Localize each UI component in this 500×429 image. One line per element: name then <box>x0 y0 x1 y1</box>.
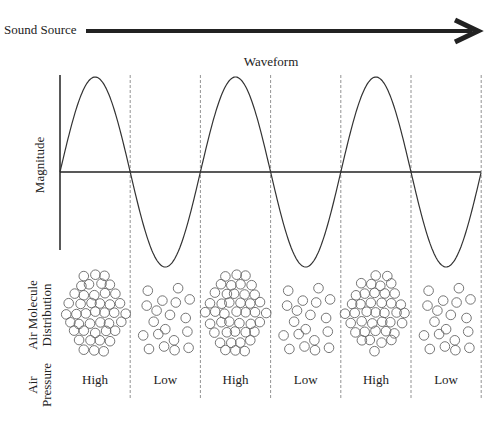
molecule-icon <box>310 345 320 355</box>
molecule-icon <box>462 313 472 323</box>
molecule-icon <box>158 296 168 306</box>
molecule-icon <box>64 298 74 308</box>
distribution-label-line1: Air Molecule <box>25 280 40 350</box>
molecule-icon <box>351 291 361 301</box>
molecule-icon <box>246 336 256 346</box>
molecule-icon <box>434 329 444 339</box>
molecule-icon <box>419 331 429 341</box>
molecule-icon <box>231 346 241 356</box>
molecule-icon <box>74 335 84 345</box>
molecule-icon <box>184 343 194 353</box>
molecule-icon <box>241 308 251 318</box>
molecule-icon <box>250 307 260 317</box>
propagation-arrow-icon <box>86 20 478 42</box>
molecule-icon <box>236 298 246 308</box>
molecule-icon <box>100 288 110 298</box>
molecule-icon <box>247 280 257 290</box>
molecule-icon <box>117 317 127 327</box>
molecule-icon <box>441 324 451 334</box>
molecule-icon <box>86 336 96 346</box>
molecule-icon <box>386 279 396 289</box>
molecule-icon <box>144 344 154 354</box>
molecule-icon <box>255 317 265 327</box>
molecule-icon <box>301 324 311 334</box>
molecule-icon <box>450 336 460 346</box>
molecule-icon <box>446 310 456 320</box>
pressure-value-label: High <box>223 372 250 387</box>
magnitude-axis-label: Magnitude <box>32 137 47 194</box>
molecule-icon <box>380 289 390 299</box>
molecule-icon <box>169 336 179 346</box>
molecule-icon <box>76 299 86 309</box>
molecule-icon <box>323 327 333 337</box>
molecule-icon <box>362 307 372 317</box>
molecule-icon <box>149 317 159 327</box>
pressure-label-line2: Pressure <box>39 363 54 407</box>
segment-dividers <box>130 75 481 398</box>
molecule-icon <box>350 308 360 318</box>
molecule-icon <box>110 326 120 336</box>
molecule-icon <box>205 319 215 329</box>
molecule-icon <box>152 306 162 316</box>
molecule-icon <box>240 346 250 356</box>
molecule-icon <box>371 308 381 318</box>
molecule-icon <box>311 298 321 308</box>
molecule-icon <box>245 299 255 309</box>
molecule-icon <box>367 279 377 289</box>
molecule-icon <box>171 298 181 308</box>
molecule-icon <box>115 299 125 309</box>
molecule-icon <box>366 298 376 308</box>
pressure-value-label: High <box>82 372 109 387</box>
molecule-icon <box>451 345 461 355</box>
molecule-icon <box>200 307 210 317</box>
molecule-icon <box>430 317 440 327</box>
molecule-icon <box>377 338 387 348</box>
molecule-icon <box>221 345 231 355</box>
molecule-icon <box>105 336 115 346</box>
molecule-icon <box>438 296 448 306</box>
molecule-icon <box>90 328 100 338</box>
molecule-icon <box>181 313 191 323</box>
molecule-icon <box>292 306 302 316</box>
molecule-icon <box>423 301 433 311</box>
molecule-icon <box>298 296 308 306</box>
molecule-icon <box>138 331 148 341</box>
molecule-icon <box>346 318 356 328</box>
molecule-icon <box>81 309 91 319</box>
molecule-icon <box>279 331 289 341</box>
molecule-icon <box>95 336 105 346</box>
molecule-icon <box>216 279 226 289</box>
molecule-icon <box>72 309 82 319</box>
molecule-icon <box>300 342 310 352</box>
molecule-icon <box>340 309 350 319</box>
molecule-icon <box>185 295 195 305</box>
molecule-icon <box>236 280 246 290</box>
molecule-icon <box>325 295 335 305</box>
molecule-icon <box>283 286 293 296</box>
air-molecules <box>61 270 475 356</box>
molecule-icon <box>79 326 89 336</box>
molecule-icon <box>159 342 169 352</box>
molecule-icon <box>386 299 396 309</box>
molecule-icon <box>289 317 299 327</box>
sound-wave-diagram: Sound Source Waveform Magnitude Air Mole… <box>0 0 500 429</box>
molecule-icon <box>143 286 153 296</box>
molecule-icon <box>440 342 450 352</box>
molecule-icon <box>466 295 476 305</box>
pressure-labels: HighLowHighLowHighLow <box>82 372 459 387</box>
molecule-icon <box>229 289 239 299</box>
molecule-icon <box>210 328 220 338</box>
molecule-icon <box>183 327 193 337</box>
molecule-icon <box>294 329 304 339</box>
molecule-icon <box>255 297 265 307</box>
molecule-icon <box>356 278 366 288</box>
molecule-icon <box>360 289 370 299</box>
molecule-icon <box>425 344 435 354</box>
molecule-icon <box>96 318 106 328</box>
molecule-icon <box>205 299 215 309</box>
molecule-icon <box>424 286 434 296</box>
waveform-title: Waveform <box>244 54 299 69</box>
molecule-icon <box>79 345 89 355</box>
molecule-icon <box>380 308 390 318</box>
molecule-icon <box>232 307 242 317</box>
